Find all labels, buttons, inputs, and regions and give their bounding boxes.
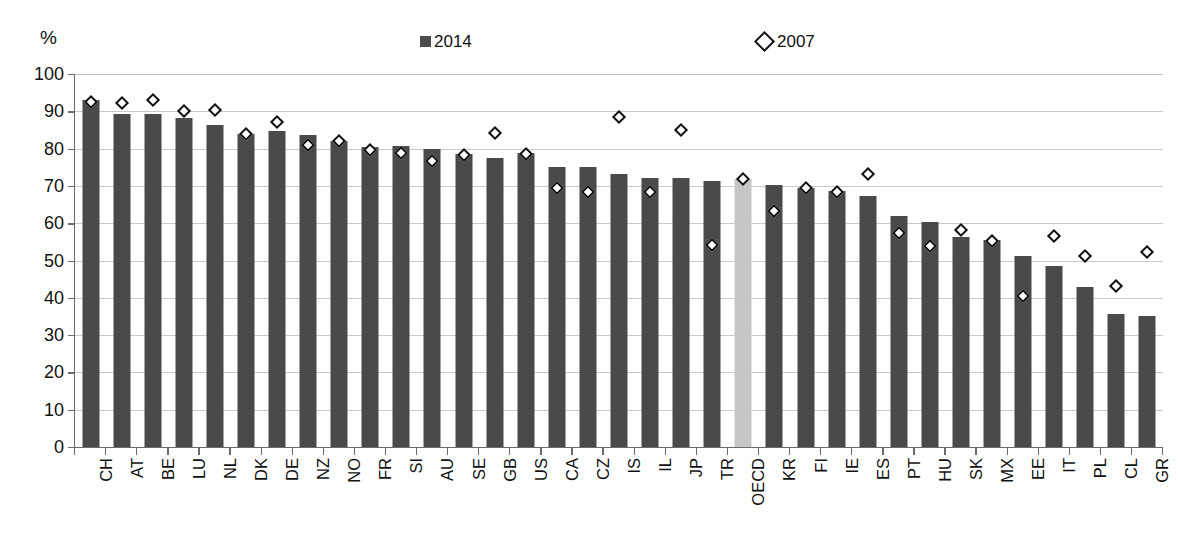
bar-group bbox=[510, 74, 541, 447]
marker-be bbox=[146, 93, 160, 107]
x-axis-label-fi: FI bbox=[813, 458, 830, 473]
bar-group bbox=[106, 74, 137, 447]
bar-group bbox=[137, 74, 168, 447]
y-axis-tick-label: 40 bbox=[6, 289, 64, 307]
bar-is bbox=[610, 174, 627, 447]
bar-group bbox=[945, 74, 976, 447]
bar-group bbox=[914, 74, 945, 447]
x-axis-tick bbox=[1007, 447, 1008, 455]
bar-ie bbox=[828, 191, 845, 447]
bar-group bbox=[790, 74, 821, 447]
bar-pl bbox=[1077, 287, 1094, 447]
x-axis-tick bbox=[261, 447, 262, 455]
y-axis-tick-label: 30 bbox=[6, 326, 64, 344]
bar-sk bbox=[952, 237, 969, 447]
bar-group bbox=[355, 74, 386, 447]
bar-group bbox=[262, 74, 293, 447]
x-axis-label-nl: NL bbox=[222, 458, 239, 479]
bar-oecd bbox=[735, 179, 752, 447]
bar-mx bbox=[984, 240, 1001, 447]
bar-group bbox=[759, 74, 790, 447]
x-axis-label-us: US bbox=[533, 458, 550, 481]
x-axis-tick bbox=[323, 447, 324, 455]
x-axis-label-fr: FR bbox=[377, 458, 394, 480]
legend-item-2014: 2014 bbox=[420, 33, 472, 50]
plot-area bbox=[74, 74, 1163, 448]
diamond-marker-icon bbox=[754, 30, 775, 51]
x-axis-label-pl: PL bbox=[1092, 458, 1109, 478]
square-marker-icon bbox=[420, 36, 431, 47]
marker-de bbox=[270, 115, 284, 129]
bar-group bbox=[1008, 74, 1039, 447]
marker-lu bbox=[177, 103, 191, 117]
x-axis-tick bbox=[74, 447, 75, 455]
bar-group bbox=[976, 74, 1007, 447]
x-axis-tick bbox=[136, 447, 137, 455]
x-axis-tick bbox=[882, 447, 883, 455]
bar-fr bbox=[362, 147, 379, 447]
x-axis-label-se: SE bbox=[471, 458, 488, 480]
x-axis-tick bbox=[292, 447, 293, 455]
x-axis-tick bbox=[1100, 447, 1101, 455]
x-axis-tick bbox=[1131, 447, 1132, 455]
x-axis-label-hu: HU bbox=[937, 458, 954, 482]
bar-gb bbox=[486, 158, 503, 447]
bar-group bbox=[1070, 74, 1101, 447]
x-axis-tick bbox=[198, 447, 199, 455]
x-axis-tick bbox=[758, 447, 759, 455]
x-axis-tick bbox=[1162, 447, 1163, 455]
bar-jp bbox=[673, 178, 690, 447]
x-axis-tick bbox=[571, 447, 572, 455]
x-axis-label-is: IS bbox=[626, 458, 643, 474]
x-axis-tick bbox=[851, 447, 852, 455]
bar-no bbox=[331, 141, 348, 447]
bar-series bbox=[75, 74, 1163, 447]
x-axis-label-kr: KR bbox=[781, 458, 798, 481]
x-axis-ticks bbox=[74, 447, 1162, 456]
x-axis-tick bbox=[509, 447, 510, 455]
legend-label-2014: 2014 bbox=[434, 33, 472, 50]
y-axis-tick-label: 90 bbox=[6, 102, 64, 120]
y-axis-tick-label: 10 bbox=[6, 401, 64, 419]
x-axis-label-cl: CL bbox=[1123, 458, 1140, 479]
y-axis-tick-label: 0 bbox=[6, 438, 64, 456]
marker-gr bbox=[1140, 245, 1154, 259]
x-axis-label-nz: NZ bbox=[315, 458, 332, 480]
x-axis-tick bbox=[229, 447, 230, 455]
legend-item-2007: 2007 bbox=[757, 33, 815, 50]
marker-nl bbox=[208, 103, 222, 117]
bar-dk bbox=[237, 134, 254, 447]
bar-us bbox=[517, 153, 534, 447]
bar-group bbox=[417, 74, 448, 447]
x-axis-tick bbox=[478, 447, 479, 455]
legend-label-2007: 2007 bbox=[777, 33, 815, 50]
bar-cl bbox=[1108, 314, 1125, 447]
x-axis-tick bbox=[820, 447, 821, 455]
x-axis-label-ch: CH bbox=[98, 458, 115, 482]
bar-group bbox=[324, 74, 355, 447]
x-axis-tick bbox=[913, 447, 914, 455]
bar-group bbox=[75, 74, 106, 447]
bar-group bbox=[572, 74, 603, 447]
x-axis-label-pt: PT bbox=[906, 458, 923, 479]
bar-group bbox=[168, 74, 199, 447]
x-axis-label-ie: IE bbox=[844, 458, 861, 474]
bar-group bbox=[852, 74, 883, 447]
bar-fi bbox=[797, 188, 814, 447]
chart-legend: 2014 2007 bbox=[0, 33, 1178, 57]
x-axis-tick bbox=[447, 447, 448, 455]
marker-sk bbox=[954, 223, 968, 237]
bar-si bbox=[393, 146, 410, 447]
bar-ee bbox=[1015, 256, 1032, 447]
y-axis-tick-label: 70 bbox=[6, 177, 64, 195]
x-axis-tick bbox=[789, 447, 790, 455]
bar-group bbox=[541, 74, 572, 447]
x-axis-label-ca: CA bbox=[564, 458, 581, 481]
bar-tr bbox=[704, 181, 721, 447]
bar-group bbox=[821, 74, 852, 447]
x-axis-label-it: IT bbox=[1061, 458, 1078, 473]
x-axis-tick bbox=[385, 447, 386, 455]
bar-ca bbox=[548, 167, 565, 447]
x-axis-label-jp: JP bbox=[688, 458, 705, 477]
marker-is bbox=[612, 110, 626, 124]
